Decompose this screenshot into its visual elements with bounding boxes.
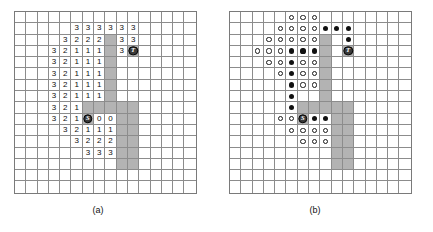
grid-cell-r3-c4[interactable] xyxy=(275,46,286,57)
grid-cell-r3-c0[interactable] xyxy=(15,46,26,57)
grid-cell-r10-c0[interactable] xyxy=(230,125,241,136)
grid-cell-r8-c4[interactable] xyxy=(275,102,286,113)
grid-cell-r14-c10[interactable] xyxy=(343,170,354,181)
grid-cell-r4-c3[interactable]: 3 xyxy=(49,57,60,68)
grid-cell-r7-c0[interactable] xyxy=(230,91,241,102)
grid-cell-r3-c9[interactable] xyxy=(332,46,343,57)
grid-cell-r4-c13[interactable] xyxy=(162,57,173,68)
grid-cell-r15-c0[interactable] xyxy=(230,181,241,192)
grid-cell-r15-c12[interactable] xyxy=(366,181,377,192)
grid-cell-r6-c14[interactable] xyxy=(388,80,399,91)
grid-cell-r1-c6[interactable] xyxy=(298,23,309,34)
grid-cell-r12-c15[interactable] xyxy=(184,148,195,159)
grid-cell-r6-c2[interactable] xyxy=(38,80,49,91)
grid-cell-r5-c7[interactable]: 1 xyxy=(94,68,105,79)
grid-cell-r5-c10[interactable] xyxy=(343,68,354,79)
grid-cell-r14-c4[interactable] xyxy=(60,170,71,181)
grid-cell-r12-c4[interactable] xyxy=(275,148,286,159)
grid-cell-r0-c5[interactable] xyxy=(71,12,82,23)
grid-cell-r0-c2[interactable] xyxy=(38,12,49,23)
grid-cell-r15-c15[interactable] xyxy=(184,181,195,192)
grid-cell-r13-c11[interactable] xyxy=(139,159,150,170)
grid-cell-r4-c4[interactable]: 2 xyxy=(60,57,71,68)
grid-cell-r8-c15[interactable] xyxy=(184,102,195,113)
grid-cell-r1-c9[interactable]: 3 xyxy=(117,23,128,34)
obstacle-cell-r9-c9[interactable] xyxy=(117,114,128,125)
grid-cell-r14-c12[interactable] xyxy=(151,170,162,181)
grid-cell-r11-c7[interactable] xyxy=(309,136,320,147)
grid-cell-r6-c13[interactable] xyxy=(377,80,388,91)
grid-cell-r11-c4[interactable] xyxy=(60,136,71,147)
grid-cell-r13-c5[interactable] xyxy=(286,159,297,170)
grid-cell-r13-c15[interactable] xyxy=(184,159,195,170)
grid-cell-r11-c11[interactable] xyxy=(354,136,365,147)
grid-cell-r1-c0[interactable] xyxy=(15,23,26,34)
grid-cell-r3-c6[interactable]: 1 xyxy=(83,46,94,57)
obstacle-cell-r13-c10[interactable] xyxy=(343,159,354,170)
grid-cell-r0-c9[interactable] xyxy=(332,12,343,23)
grid-cell-r12-c6[interactable] xyxy=(298,148,309,159)
grid-cell-r15-c1[interactable] xyxy=(26,181,37,192)
grid-cell-r3-c12[interactable] xyxy=(366,46,377,57)
grid-cell-r5-c4[interactable]: 2 xyxy=(60,68,71,79)
grid-cell-r2-c0[interactable] xyxy=(15,35,26,46)
grid-cell-r3-c6[interactable] xyxy=(298,46,309,57)
grid-cell-r4-c14[interactable] xyxy=(388,57,399,68)
grid-cell-r10-c5[interactable]: 2 xyxy=(71,125,82,136)
grid-cell-r2-c9[interactable]: 3 xyxy=(117,35,128,46)
grid-cell-r15-c13[interactable] xyxy=(162,181,173,192)
grid-cell-r1-c2[interactable] xyxy=(38,23,49,34)
grid-cell-r12-c7[interactable] xyxy=(309,148,320,159)
grid-cell-r9-c1[interactable] xyxy=(26,114,37,125)
grid-cell-r4-c9[interactable] xyxy=(117,57,128,68)
grid-cell-r4-c7[interactable] xyxy=(309,57,320,68)
grid-cell-r14-c11[interactable] xyxy=(354,170,365,181)
grid-cell-r0-c0[interactable] xyxy=(15,12,26,23)
grid-cell-r7-c1[interactable] xyxy=(241,91,252,102)
grid-cell-r14-c6[interactable] xyxy=(298,170,309,181)
grid-cell-r2-c1[interactable] xyxy=(241,35,252,46)
obstacle-cell-r4-c8[interactable] xyxy=(105,57,116,68)
grid-cell-r3-c14[interactable] xyxy=(388,46,399,57)
grid-cell-r6-c0[interactable] xyxy=(230,80,241,91)
grid-cell-r8-c5[interactable] xyxy=(286,102,297,113)
grid-cell-r11-c13[interactable] xyxy=(377,136,388,147)
grid-cell-r10-c13[interactable] xyxy=(162,125,173,136)
grid-cell-r13-c3[interactable] xyxy=(264,159,275,170)
grid-cell-r8-c2[interactable] xyxy=(253,102,264,113)
obstacle-cell-r6-c8[interactable] xyxy=(320,80,331,91)
grid-cell-r9-c2[interactable] xyxy=(38,114,49,125)
grid-cell-r2-c6[interactable]: 2 xyxy=(83,35,94,46)
grid-cell-r0-c15[interactable] xyxy=(184,12,195,23)
grid-cell-r3-c5[interactable] xyxy=(286,46,297,57)
grid-cell-r4-c0[interactable] xyxy=(230,57,241,68)
grid-cell-r6-c9[interactable] xyxy=(332,80,343,91)
grid-cell-r1-c10[interactable]: 3 xyxy=(128,23,139,34)
grid-cell-r0-c10[interactable] xyxy=(128,12,139,23)
grid-cell-r10-c7[interactable] xyxy=(309,125,320,136)
grid-cell-r10-c8[interactable]: 1 xyxy=(105,125,116,136)
grid-cell-r6-c4[interactable]: 2 xyxy=(60,80,71,91)
grid-cell-r5-c11[interactable] xyxy=(354,68,365,79)
grid-cell-r5-c7[interactable] xyxy=(309,68,320,79)
grid-cell-r15-c12[interactable] xyxy=(151,181,162,192)
grid-cell-r8-c14[interactable] xyxy=(173,102,184,113)
grid-cell-r15-c7[interactable] xyxy=(309,181,320,192)
grid-cell-r15-c8[interactable] xyxy=(105,181,116,192)
obstacle-cell-r10-c10[interactable] xyxy=(343,125,354,136)
grid-cell-r9-c2[interactable] xyxy=(253,114,264,125)
obstacle-cell-r11-c10[interactable] xyxy=(343,136,354,147)
grid-cell-r6-c7[interactable]: 1 xyxy=(94,80,105,91)
grid-cell-r5-c14[interactable] xyxy=(173,68,184,79)
grid-cell-r11-c5[interactable] xyxy=(286,136,297,147)
obstacle-cell-r8-c7[interactable] xyxy=(94,102,105,113)
grid-cell-r15-c9[interactable] xyxy=(117,181,128,192)
grid-cell-r3-c1[interactable] xyxy=(241,46,252,57)
grid-cell-r2-c9[interactable] xyxy=(332,35,343,46)
grid-cell-r2-c14[interactable] xyxy=(388,35,399,46)
grid-cell-r5-c14[interactable] xyxy=(388,68,399,79)
grid-cell-r11-c11[interactable] xyxy=(139,136,150,147)
grid-cell-r11-c0[interactable] xyxy=(15,136,26,147)
grid-cell-r10-c11[interactable] xyxy=(354,125,365,136)
grid-cell-r3-c7[interactable]: 1 xyxy=(94,46,105,57)
